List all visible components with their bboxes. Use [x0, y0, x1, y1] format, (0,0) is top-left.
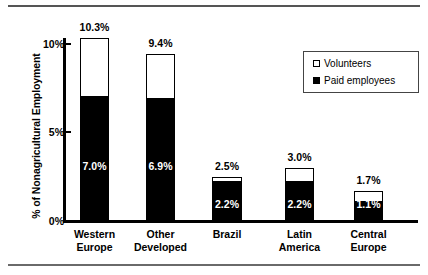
bar-group: 7.0% — [80, 38, 109, 221]
bar-total-label: 3.0% — [268, 151, 332, 163]
legend-item-paid-employees: Paid employees — [313, 75, 395, 86]
bar-segment-volunteers — [146, 54, 175, 98]
bar-group: 2.2% — [285, 168, 314, 221]
bar-total-label: 2.5% — [195, 160, 259, 172]
bar-value-label-paid: 7.0% — [81, 160, 108, 172]
legend-label-volunteers: Volunteers — [324, 58, 371, 69]
y-tick-mark — [66, 131, 71, 133]
open-square-icon — [313, 60, 320, 67]
bar-segment-paid-employees: 7.0% — [80, 97, 109, 221]
y-tick-label: 0% — [30, 215, 64, 227]
y-tick-mark — [66, 220, 71, 222]
y-tick-label: 5% — [30, 126, 64, 138]
bar-segment-volunteers — [80, 38, 109, 96]
bar-segment-volunteers — [285, 168, 314, 182]
legend-item-volunteers: Volunteers — [313, 58, 371, 69]
bar-group: 6.9% — [146, 54, 175, 221]
x-axis-category-label: Central Europe — [325, 228, 413, 253]
bar-group: 1.1% — [354, 191, 383, 221]
bar-value-label-paid: 2.2% — [213, 198, 241, 210]
bar-segment-paid-employees: 6.9% — [146, 99, 175, 221]
bar-group: 2.2% — [212, 177, 242, 221]
bar-segment-paid-employees: 2.2% — [285, 182, 314, 221]
bar-segment-paid-employees: 2.2% — [212, 182, 242, 221]
legend-label-paid-employees: Paid employees — [324, 75, 395, 86]
bar-value-label-paid: 1.1% — [355, 198, 382, 210]
bar-value-label-paid: 6.9% — [147, 160, 174, 172]
filled-square-icon — [313, 77, 320, 84]
bar-total-label: 9.4% — [129, 37, 193, 49]
bar-total-label: 10.3% — [63, 21, 127, 33]
chart-legend: Volunteers Paid employees — [303, 51, 419, 93]
y-tick-label: 10% — [30, 38, 64, 50]
bar-total-label: 1.7% — [337, 174, 401, 186]
bar-value-label-paid: 2.2% — [286, 198, 313, 210]
y-tick-mark — [66, 43, 71, 45]
stacked-bar-chart: % of Nonagricultural Employment 0%5%10% … — [0, 0, 428, 275]
bar-segment-paid-employees: 1.1% — [354, 202, 383, 221]
